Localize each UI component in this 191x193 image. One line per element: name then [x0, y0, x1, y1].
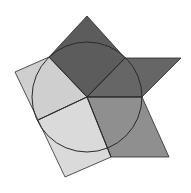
geometric-diagram [0, 0, 191, 193]
